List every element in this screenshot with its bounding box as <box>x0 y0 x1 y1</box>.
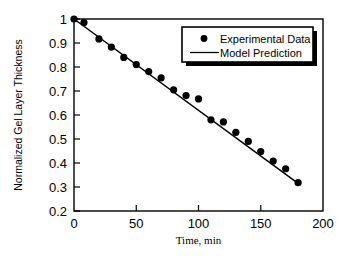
data-point <box>207 116 214 123</box>
data-point <box>182 92 189 99</box>
data-point <box>257 148 264 155</box>
data-point <box>195 95 202 102</box>
data-point <box>170 86 177 93</box>
y-axis-title: Normalized Gel Layer Thickness <box>12 39 24 191</box>
y-tick-label-8: 1 <box>60 12 67 27</box>
y-tick-label-5: 0.7 <box>49 84 67 99</box>
data-point <box>80 19 87 26</box>
data-point <box>295 179 302 186</box>
data-point <box>108 43 115 50</box>
data-point <box>95 35 102 42</box>
legend-label-model-prediction: Model Prediction <box>220 47 302 59</box>
y-tick-label-4: 0.6 <box>49 108 67 123</box>
data-point <box>245 138 252 145</box>
y-tick-label-7: 0.9 <box>49 36 67 51</box>
x-tick-label-0: 0 <box>70 216 77 231</box>
x-tick-label-4: 200 <box>312 216 334 231</box>
data-point <box>270 157 277 164</box>
data-point <box>158 74 165 81</box>
data-point <box>133 61 140 68</box>
data-point <box>70 15 77 22</box>
x-tick-label-2: 100 <box>188 216 210 231</box>
legend-label-experimental-data: Experimental Data <box>220 33 311 45</box>
y-tick-label-3: 0.5 <box>49 132 67 147</box>
y-tick-label-1: 0.3 <box>49 180 67 195</box>
data-point <box>120 54 127 61</box>
x-tick-label-1: 50 <box>129 216 143 231</box>
data-point <box>145 68 152 75</box>
x-axis-title: Time, min <box>176 234 222 246</box>
y-tick-label-6: 0.8 <box>49 60 67 75</box>
data-point <box>220 118 227 125</box>
chart-canvas: 0.20.30.40.50.60.70.80.91050100150200Tim… <box>0 0 359 265</box>
x-tick-label-3: 150 <box>250 216 272 231</box>
y-tick-label-2: 0.4 <box>49 156 67 171</box>
data-point <box>232 129 239 136</box>
chart-figure: 0.20.30.40.50.60.70.80.91050100150200Tim… <box>0 0 359 265</box>
y-tick-label-0: 0.2 <box>49 204 67 219</box>
legend-marker-experimental-data <box>201 35 208 42</box>
data-point <box>282 165 289 172</box>
